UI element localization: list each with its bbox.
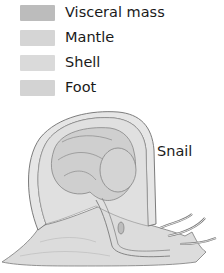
legend-label: Foot — [65, 78, 96, 96]
foot-swatch — [20, 80, 55, 96]
legend-item-shell: Shell — [20, 54, 55, 72]
shell-swatch — [20, 55, 55, 71]
snail-anatomy-illustration — [0, 108, 224, 273]
legend-label: Visceral mass — [65, 3, 165, 21]
mantle-swatch — [20, 30, 55, 46]
legend-item-visceral-mass: Visceral mass — [20, 4, 55, 22]
legend-item-mantle: Mantle — [20, 29, 55, 47]
snail-label: Snail — [157, 143, 192, 159]
visceral-mass-swatch — [20, 5, 55, 21]
legend-item-foot: Foot — [20, 79, 55, 97]
legend-label: Mantle — [65, 28, 114, 46]
legend-label: Shell — [65, 53, 100, 71]
